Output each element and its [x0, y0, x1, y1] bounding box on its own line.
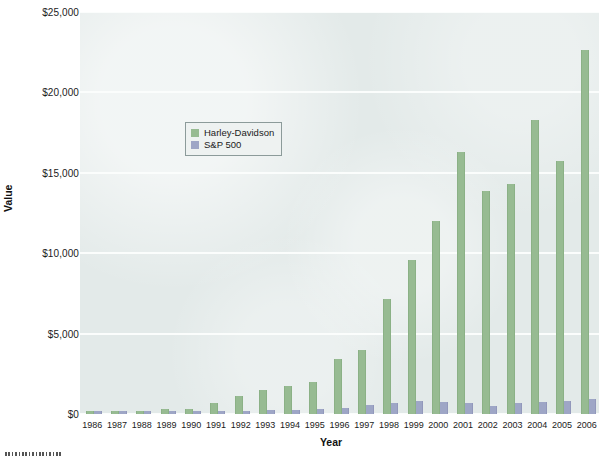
bar-harley-davidson-2004 — [531, 120, 539, 414]
x-tick-label: 1993 — [255, 420, 275, 430]
bar-harley-davidson-2000 — [432, 221, 440, 414]
stock-performance-bar-chart: $0$5,000$10,000$15,000$20,000$25,000 Val… — [0, 0, 607, 463]
legend-item-label: S&P 500 — [204, 139, 241, 151]
x-tick-label: 2005 — [552, 420, 572, 430]
bar-harley-davidson-2001 — [457, 152, 465, 414]
bar-harley-davidson-2006 — [581, 50, 589, 414]
legend-swatch-icon — [191, 129, 199, 137]
bars-layer — [80, 12, 599, 414]
x-tick-label: 1990 — [181, 420, 201, 430]
x-tick-label: 2002 — [478, 420, 498, 430]
x-tick-label: 2001 — [453, 420, 473, 430]
bar-harley-davidson-1992 — [235, 396, 243, 414]
legend-item: Harley-Davidson — [191, 127, 274, 139]
y-axis-title: Value — [2, 185, 14, 212]
bar-harley-davidson-1986 — [86, 411, 94, 414]
bar-harley-davidson-1997 — [358, 350, 366, 414]
x-tick-label: 2000 — [428, 420, 448, 430]
legend-swatch-icon — [191, 141, 199, 149]
y-tick-label: $10,000 — [7, 248, 79, 259]
x-tick-label: 1994 — [280, 420, 300, 430]
bar-harley-davidson-1990 — [185, 409, 193, 414]
bar-harley-davidson-1988 — [136, 411, 144, 414]
bar-harley-davidson-2003 — [507, 184, 515, 414]
y-tick-label: $5,000 — [7, 328, 79, 339]
bar-harley-davidson-1999 — [408, 260, 416, 414]
x-tick-label: 1987 — [107, 420, 127, 430]
x-tick-label: 1999 — [404, 420, 424, 430]
y-tick-label: $25,000 — [7, 7, 79, 18]
x-tick-label: 1995 — [305, 420, 325, 430]
x-tick-label: 1989 — [156, 420, 176, 430]
x-tick-label: 2003 — [502, 420, 522, 430]
x-axis-title: Year — [0, 436, 607, 448]
y-tick-label: $15,000 — [7, 167, 79, 178]
x-tick-label: 1992 — [231, 420, 251, 430]
x-tick-label: 1996 — [329, 420, 349, 430]
x-tick-label: 1998 — [379, 420, 399, 430]
x-tick-label: 1991 — [206, 420, 226, 430]
bar-harley-davidson-1989 — [161, 409, 169, 414]
legend-item: S&P 500 — [191, 139, 274, 151]
y-tick-label: $20,000 — [7, 87, 79, 98]
bar-harley-davidson-2005 — [556, 161, 564, 414]
bar-harley-davidson-1994 — [284, 386, 292, 414]
bar-harley-davidson-1996 — [334, 359, 342, 414]
bottom-dotted-rule — [5, 452, 61, 456]
x-tick-label: 1986 — [82, 420, 102, 430]
y-axis-tick-labels: $0$5,000$10,000$15,000$20,000$25,000 — [0, 0, 79, 463]
chart-legend: Harley-DavidsonS&P 500 — [185, 122, 282, 156]
bar-harley-davidson-1991 — [210, 403, 218, 414]
x-tick-label: 2006 — [577, 420, 597, 430]
x-tick-label: 1988 — [132, 420, 152, 430]
bar-harley-davidson-1993 — [259, 390, 267, 414]
x-tick-label: 1997 — [354, 420, 374, 430]
plot-area: Harley-DavidsonS&P 500 — [80, 12, 599, 414]
legend-item-label: Harley-Davidson — [204, 127, 274, 139]
x-axis-tick-labels: 1986198719881989199019911992199319941995… — [80, 420, 599, 434]
bar-harley-davidson-1995 — [309, 382, 317, 414]
bar-harley-davidson-1987 — [111, 411, 119, 414]
y-tick-label: $0 — [7, 409, 79, 420]
bar-harley-davidson-1998 — [383, 299, 391, 414]
x-tick-label: 2004 — [527, 420, 547, 430]
x-axis-title-text: Year — [320, 436, 342, 448]
bar-harley-davidson-2002 — [482, 191, 490, 414]
